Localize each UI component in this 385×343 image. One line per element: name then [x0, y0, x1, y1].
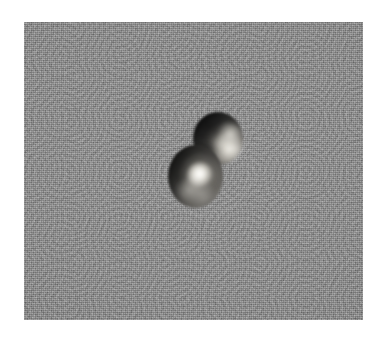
micrograph-image-field[interactable]: [24, 22, 363, 320]
particle-lobe-lower-left[interactable]: [168, 145, 223, 208]
doublet-particle[interactable]: [24, 22, 363, 320]
figure-root: [0, 0, 385, 343]
